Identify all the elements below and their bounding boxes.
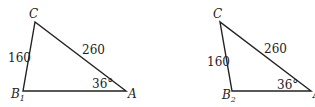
triangle-diagram: C B1 A 160 260 36° C B2 A 160 260 36° bbox=[0, 0, 315, 107]
angle-a-label: 36° bbox=[92, 77, 113, 91]
triangle-2: C B2 A 160 260 36° bbox=[207, 7, 315, 104]
vertex-c-label: C bbox=[29, 7, 38, 21]
vertex-c-label: C bbox=[213, 7, 222, 21]
side-cb-label: 160 bbox=[8, 51, 31, 65]
vertex-a-label: A bbox=[127, 87, 137, 101]
triangle-1: C B1 A 160 260 36° bbox=[8, 7, 137, 103]
side-ca-label: 260 bbox=[264, 42, 287, 56]
side-ca-label: 260 bbox=[82, 43, 105, 57]
side-cb-label: 160 bbox=[207, 55, 230, 69]
angle-a-label: 36° bbox=[277, 78, 298, 92]
vertex-a-label: A bbox=[312, 87, 315, 101]
